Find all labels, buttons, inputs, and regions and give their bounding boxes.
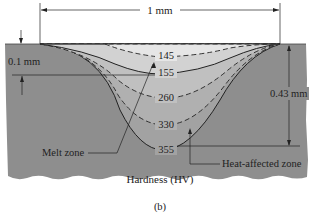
contour-label-155: 155 xyxy=(158,67,174,78)
total-depth-label: 0.43 mm xyxy=(270,88,307,99)
arrow-left-icon xyxy=(41,8,47,12)
contour-label-355: 355 xyxy=(158,144,174,155)
contour-label-260: 260 xyxy=(158,92,174,103)
hardness-title: Hardness (HV) xyxy=(127,173,194,186)
weld-hardness-diagram: 1 mm 0.1 mm 0.43 mm 145 155 260 330 355 … xyxy=(0,0,318,215)
contour-label-145: 145 xyxy=(158,50,174,61)
figure-caption: (b) xyxy=(154,201,167,213)
melt-zone-label: Melt zone xyxy=(42,147,85,158)
arrow-down-icon xyxy=(19,38,23,44)
melt-depth-label: 0.1 mm xyxy=(8,56,40,67)
arrow-right-icon xyxy=(273,8,279,12)
width-label: 1 mm xyxy=(147,4,173,16)
contour-label-330: 330 xyxy=(158,119,174,130)
haz-label: Heat-affected zone xyxy=(222,158,302,169)
